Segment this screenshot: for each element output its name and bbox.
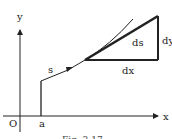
label-dx: dx: [122, 65, 134, 76]
direction-arrow-icon: [66, 67, 73, 72]
arc-length-diagram: y x O a s ds dx dy Fig. 3.17: [0, 0, 172, 139]
curve-s: [41, 19, 133, 81]
tangent-ds: [85, 16, 158, 60]
figure-caption: Fig. 3.17: [62, 135, 103, 139]
label-a: a: [39, 118, 45, 129]
label-origin: O: [9, 118, 17, 129]
label-ds: ds: [132, 37, 144, 48]
label-x-axis: x: [163, 111, 169, 122]
label-dy: dy: [162, 35, 172, 46]
label-y-axis: y: [16, 11, 23, 22]
label-s: s: [48, 64, 53, 75]
